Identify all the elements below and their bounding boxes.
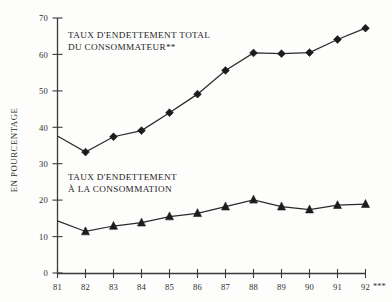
- x-tick-label-85: 85: [165, 282, 174, 292]
- x-tick-label-81: 81: [53, 282, 62, 292]
- lower-series-label-line2: À LA CONSOMMATION: [68, 184, 172, 194]
- upper-series-label-line1: TAUX D'ENDETTEMENT TOTAL: [68, 30, 210, 40]
- data-point-marker: [250, 195, 258, 203]
- y-tick-label-50: 50: [39, 86, 48, 96]
- data-point-marker: [138, 127, 146, 135]
- series-line: [58, 200, 366, 232]
- data-point-marker: [166, 109, 174, 117]
- y-tick-label-30: 30: [39, 159, 48, 169]
- x-tick-label-89: 89: [277, 282, 286, 292]
- data-point-marker: [250, 49, 258, 57]
- x-tick-label-84: 84: [137, 282, 146, 292]
- x-tick-label-82: 82: [81, 282, 90, 292]
- x-axis-footnote-marker: ***: [373, 282, 386, 291]
- x-tick-label-91: 91: [333, 282, 342, 292]
- data-point-marker: [82, 148, 90, 156]
- y-tick-label-70: 70: [39, 13, 48, 23]
- x-tick-label-87: 87: [221, 282, 230, 292]
- data-point-marker: [278, 50, 286, 58]
- data-point-marker: [306, 49, 314, 57]
- x-tick-label-86: 86: [193, 282, 202, 292]
- data-point-marker: [362, 24, 370, 32]
- x-tick-label-90: 90: [305, 282, 314, 292]
- x-tick-label-83: 83: [109, 282, 118, 292]
- x-tick-label-92: 92: [361, 282, 370, 292]
- y-tick-label-60: 60: [39, 50, 48, 60]
- upper-series-label-line2: DU CONSOMMATEUR**: [68, 42, 176, 52]
- y-tick-label-10: 10: [39, 232, 48, 242]
- series-layer: [58, 24, 370, 234]
- y-axis-title: EN POURCENTAGE: [9, 108, 19, 193]
- x-tick-label-88: 88: [249, 282, 258, 292]
- chart-container: EN POURCENTAGE 70 60 50 40 30 20 10 0: [0, 0, 392, 302]
- series-consumer-debt: [58, 195, 370, 235]
- data-point-marker: [334, 36, 342, 44]
- y-tick-label-20: 20: [39, 195, 48, 205]
- y-tick-label-0: 0: [44, 268, 49, 278]
- line-chart-plot: EN POURCENTAGE 70 60 50 40 30 20 10 0: [0, 0, 392, 302]
- data-point-marker: [362, 200, 370, 208]
- data-point-marker: [110, 133, 118, 141]
- y-tick-label-40: 40: [39, 123, 48, 133]
- lower-series-label-line1: TAUX D'ENDETTEMENT: [68, 172, 177, 182]
